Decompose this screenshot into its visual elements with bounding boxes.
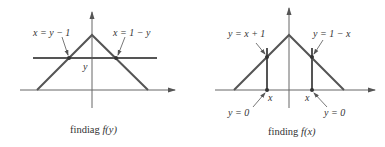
label-y-eq-x-plus-1: y = x + 1 <box>227 28 265 39</box>
caption-finding-f-y: findiag f(y) <box>70 124 117 136</box>
panel-finding-f-x: y = x + 1 y = 1 − x x x y = 0 y = 0 find… <box>215 8 375 138</box>
intersection-left <box>67 56 71 60</box>
pointer-bottom-right <box>314 93 327 107</box>
intersection-right-bottom <box>310 88 314 92</box>
label-x-eq-1-minus-y: x = 1 − y <box>112 27 151 38</box>
intersection-left-top <box>265 55 269 59</box>
intersection-right <box>114 56 118 60</box>
pointer-top-left <box>256 43 265 54</box>
diagram-canvas: x = y − 1 x = 1 − y y findiag f(y) y = x… <box>0 0 385 147</box>
label-y-eq-0-left: y = 0 <box>227 107 249 118</box>
pointer-right <box>118 37 125 55</box>
label-x-eq-y-minus-1: x = y − 1 <box>32 27 70 38</box>
label-y-eq-0-right: y = 0 <box>323 107 345 118</box>
pointer-left <box>62 37 68 55</box>
intersection-right-top <box>310 55 314 59</box>
label-y-mark: y <box>82 61 88 72</box>
panel-finding-f-y: x = y − 1 x = 1 − y y findiag f(y) <box>20 12 175 136</box>
label-x-mark-left: x <box>267 92 273 103</box>
label-y-eq-1-minus-x: y = 1 − x <box>312 28 351 39</box>
label-x-mark-right: x <box>304 92 310 103</box>
pointer-bottom-left <box>253 93 265 107</box>
caption-finding-f-x: finding f(x) <box>268 126 316 138</box>
pointer-top-right <box>314 40 323 54</box>
